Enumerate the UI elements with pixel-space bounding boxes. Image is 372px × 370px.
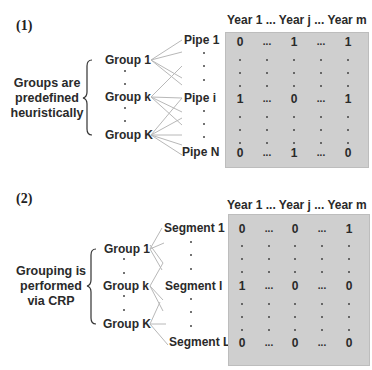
matrix-cell: ... [259,280,279,291]
ellipsis-dot [347,116,349,118]
ellipsis-dot [239,59,241,61]
pipe-N-label: Pipe N [182,145,219,159]
ellipsis-dot [320,129,322,131]
header-ellipsis: ... [314,198,324,212]
matrix-cell: 1 [338,35,358,49]
matrix-cell: 0 [339,279,359,293]
ellipsis-dot [266,59,268,61]
matrix-cell: ... [311,36,331,47]
ellipsis-dot [268,303,270,305]
matrix-cell: 0 [230,146,250,160]
ellipsis-dot [293,129,295,131]
ellipsis-dot [294,303,296,305]
ellipsis-dot [123,309,125,311]
ellipsis-dot [348,329,350,331]
ellipsis-dot [241,258,243,260]
matrix-cell: 1 [284,35,304,49]
matrix-cell: ... [311,147,331,158]
panel-1-label: (1) [16,18,32,34]
matrix-cell: 1 [339,222,359,236]
ellipsis-dot [203,110,205,112]
panel-2-matrix: 0 ... 0 ... 1 1 ... 0 ... 0 0 ... 0 ... … [228,214,370,366]
ellipsis-dot [239,142,241,144]
matrix-cell: ... [312,280,332,291]
ellipsis-dot [294,329,296,331]
segment-L-label: Segment L [169,335,230,349]
pipe-i-label: Pipe i [184,91,216,105]
ellipsis-dot [266,129,268,131]
ellipsis-dot [348,316,350,318]
matrix-cell: 1 [338,92,358,106]
matrix-cell: 1 [230,92,250,106]
header-year-1: Year 1 [227,198,262,212]
description-line: Grouping is [6,264,96,279]
ellipsis-dot [203,52,205,54]
matrix-cell: 1 [232,279,252,293]
ellipsis-dot [241,271,243,273]
ellipsis-dot [321,258,323,260]
ellipsis-dot [239,85,241,87]
ellipsis-dot [347,85,349,87]
ellipsis-dot [203,136,205,138]
ellipsis-dot [123,295,125,297]
ellipsis-dot [320,59,322,61]
ellipsis-dot [124,83,126,85]
matrix-cell: ... [257,93,277,104]
ellipsis-dot [190,298,192,300]
description-line: performed [6,279,96,294]
header-year-1: Year 1 [227,13,262,27]
ellipsis-dot [320,116,322,118]
description-line: heuristically [2,106,92,121]
matrix-cell: 0 [230,35,250,49]
group-k-label: Group k [105,90,151,104]
ellipsis-dot [239,116,241,118]
panel-2-column-header: Year 1 ... Year j ... Year m [227,198,367,212]
header-year-j: Year j [279,13,311,27]
ellipsis-dot [203,123,205,125]
ellipsis-dot [124,120,126,122]
description-line: via CRP [6,294,96,309]
matrix-cell: 0 [338,146,358,160]
ellipsis-dot [268,271,270,273]
ellipsis-dot [123,258,125,260]
matrix-cell: 0 [285,279,305,293]
ellipsis-dot [293,116,295,118]
description-line: predefined [2,91,92,106]
matrix-cell: ... [312,223,332,234]
matrix-cell: ... [259,337,279,348]
ellipsis-dot [190,268,192,270]
ellipsis-dot [190,311,192,313]
segment-1-label: Segment 1 [164,221,225,235]
matrix-cell: ... [259,223,279,234]
segment-l-label: Segment l [165,279,222,293]
ellipsis-dot [293,72,295,74]
group-1-label: Group 1 [105,53,151,67]
matrix-cell: 0 [284,92,304,106]
matrix-cell: ... [312,337,332,348]
ellipsis-dot [203,79,205,81]
description-line: Groups are [2,76,92,91]
ellipsis-dot [293,59,295,61]
ellipsis-dot [348,258,350,260]
group-K-label: Group K [103,317,151,331]
ellipsis-dot [347,129,349,131]
ellipsis-dot [347,59,349,61]
ellipsis-dot [320,142,322,144]
ellipsis-dot [123,272,125,274]
ellipsis-dot [266,116,268,118]
ellipsis-dot [294,271,296,273]
ellipsis-dot [321,329,323,331]
group-k-label: Group k [103,279,149,293]
pipe-1-label: Pipe 1 [184,33,219,47]
ellipsis-dot [241,329,243,331]
ellipsis-dot [241,316,243,318]
matrix-cell: 0 [232,336,252,350]
ellipsis-dot [320,85,322,87]
header-year-m: Year m [327,13,366,27]
ellipsis-dot [241,303,243,305]
ellipsis-dot [190,254,192,256]
ellipsis-dot [268,245,270,247]
ellipsis-dot [293,85,295,87]
ellipsis-dot [348,245,350,247]
ellipsis-dot [239,72,241,74]
